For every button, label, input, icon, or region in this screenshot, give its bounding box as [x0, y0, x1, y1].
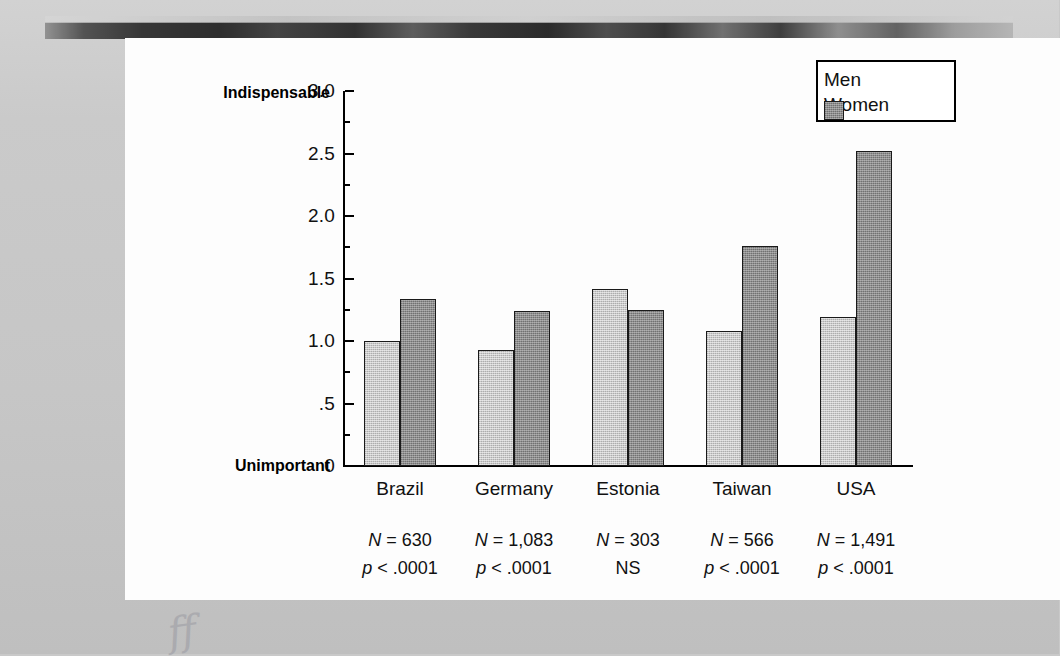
bar-women-estonia [628, 310, 664, 466]
category-label-estonia: Estonia [596, 478, 659, 500]
category-label-germany: Germany [475, 478, 553, 500]
chart-area: 3.02.52.01.51.0.50 Indispensable Unimpor… [125, 38, 1060, 600]
chart-legend: Men Women [816, 60, 956, 122]
sample-size-usa: N = 1,491 [817, 530, 896, 551]
legend-item-men: Men [824, 67, 948, 92]
p-value-usa: p < .0001 [818, 558, 894, 579]
sample-size-estonia: N = 303 [596, 530, 660, 551]
bar-women-taiwan [742, 246, 778, 466]
category-label-taiwan: Taiwan [712, 478, 771, 500]
y-tick-label-4: 1.0 [275, 330, 335, 352]
y-tick-label-5: .5 [275, 393, 335, 415]
axis-top-label: Indispensable [125, 84, 330, 102]
sample-size-brazil: N = 630 [368, 530, 432, 551]
p-value-estonia: NS [615, 558, 640, 579]
sample-size-germany: N = 1,083 [475, 530, 554, 551]
bar-group-container [343, 91, 913, 466]
y-tick-label-1: 2.5 [275, 143, 335, 165]
y-tick-label-2: 2.0 [275, 205, 335, 227]
bar-men-germany [478, 350, 514, 466]
bar-women-germany [514, 311, 550, 466]
bar-men-brazil [364, 341, 400, 466]
bar-men-taiwan [706, 331, 742, 466]
category-label-usa: USA [836, 478, 875, 500]
sample-size-taiwan: N = 566 [710, 530, 774, 551]
axis-bottom-label: Unimportant [125, 457, 330, 475]
scan-artifact-band [45, 22, 1013, 39]
bar-men-estonia [592, 289, 628, 467]
y-tick-label-3: 1.5 [275, 268, 335, 290]
bar-women-usa [856, 151, 892, 466]
bar-men-usa [820, 317, 856, 466]
category-label-brazil: Brazil [376, 478, 424, 500]
p-value-germany: p < .0001 [476, 558, 552, 579]
p-value-taiwan: p < .0001 [704, 558, 780, 579]
legend-label-men: Men [824, 70, 861, 89]
p-value-brazil: p < .0001 [362, 558, 438, 579]
bar-women-brazil [400, 299, 436, 467]
legend-item-women: Women [824, 92, 948, 117]
legend-swatch-women [824, 101, 844, 120]
figure-panel: 3.02.52.01.51.0.50 Indispensable Unimpor… [125, 38, 1060, 600]
